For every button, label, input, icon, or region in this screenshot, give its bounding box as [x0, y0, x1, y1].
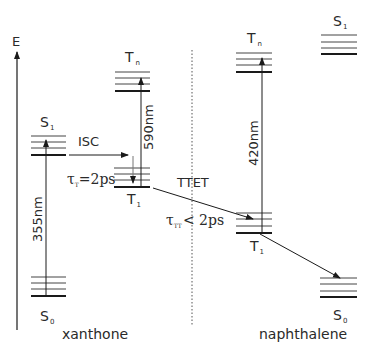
- level-naphthalene-t1: T1: [236, 213, 272, 256]
- molecule-name-naphthalene: naphthalene: [259, 326, 347, 342]
- xanthone-tt-wavelength: 590nm: [141, 104, 156, 150]
- energy-level-diagram: E S1 S0 Tn T1 Tn: [0, 0, 376, 358]
- transition-isc: ISC: [69, 134, 128, 155]
- level-xanthone-s1: S1: [31, 114, 66, 155]
- state-label: S1: [40, 114, 54, 132]
- level-xanthone-t1: T1: [114, 168, 150, 209]
- tau-tt-label: τTT< 2ps: [166, 212, 224, 229]
- state-label: Tn: [246, 30, 262, 48]
- level-naphthalene-tn: Tn: [236, 30, 272, 72]
- transition-xanthone-tt: 590nm: [141, 78, 156, 187]
- level-naphthalene-s0: S0: [320, 278, 357, 325]
- level-xanthone-s0: S0: [31, 277, 66, 326]
- state-label: T1: [249, 238, 264, 256]
- energy-axis: E: [12, 34, 20, 330]
- tau-t-label: τT=2ps: [67, 171, 116, 188]
- level-naphthalene-s1: S1: [321, 13, 357, 54]
- naphthalene-tt-wavelength: 420nm: [246, 120, 261, 166]
- isc-label: ISC: [78, 134, 99, 149]
- molecule-name-xanthone: xanthone: [62, 326, 128, 342]
- transition-naphthalene-tt: 420nm: [246, 58, 262, 233]
- energy-axis-label: E: [12, 34, 20, 49]
- decay-arrow: [260, 234, 340, 278]
- state-label: S0: [333, 307, 347, 325]
- state-label: Tn: [124, 49, 140, 67]
- transition-excitation: 355nm: [30, 140, 46, 296]
- excitation-wavelength: 355nm: [30, 196, 45, 242]
- ttet-label: TTET: [176, 175, 209, 190]
- level-xanthone-tn: Tn: [115, 49, 150, 91]
- state-label: S1: [333, 13, 347, 31]
- state-label: T1: [126, 191, 141, 209]
- state-label: S0: [40, 308, 54, 326]
